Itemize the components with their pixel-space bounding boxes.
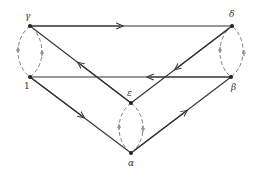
label-beta: β [231,83,236,92]
loop-delta-beta [220,26,243,77]
node-one [28,75,32,79]
label-alpha: α [128,159,134,168]
node-delta [230,24,234,28]
node-epsilon [129,101,133,105]
label-one: 1 [24,82,30,91]
loop-gamma-one [18,26,42,77]
label-delta: δ [229,10,234,19]
loop-epsilon-alpha [119,103,143,153]
node-alpha [129,151,133,155]
node-beta [229,75,233,79]
label-gamma: γ [25,12,30,21]
label-epsilon: ε [127,89,132,98]
node-gamma [28,24,32,28]
